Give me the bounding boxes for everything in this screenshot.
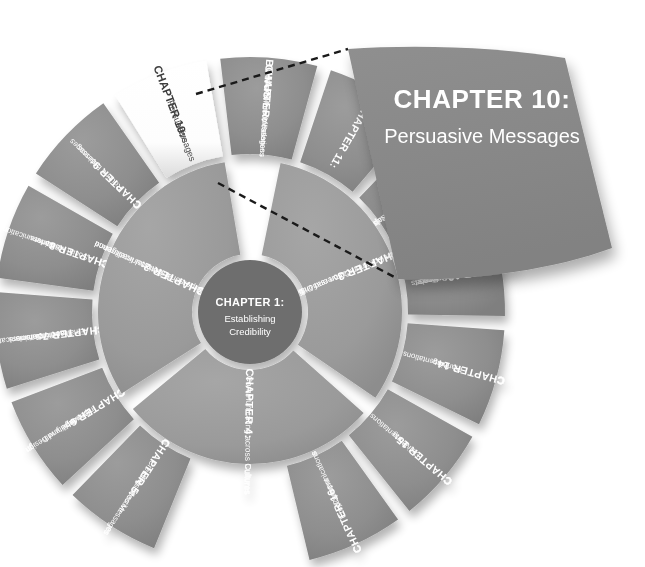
- chapter-4-subtitle-1: Communicating across Cultures: [243, 376, 255, 495]
- chapter-wheel-svg: CHAPTER 5:Creating EffectiveBusiness Mes…: [0, 0, 645, 567]
- hub-circle: [198, 260, 302, 364]
- hub-subtitle-2: Credibility: [229, 326, 271, 337]
- hub-segment[interactable]: CHAPTER 1: Establishing Credibility: [198, 260, 302, 364]
- callout-title: CHAPTER 10:: [393, 84, 570, 114]
- callout-shape: [348, 47, 612, 280]
- figure-canvas: CHAPTER 5:Creating EffectiveBusiness Mes…: [0, 0, 645, 567]
- hub-subtitle-1: Establishing: [224, 313, 275, 324]
- callout-subtitle: Persuasive Messages: [384, 125, 580, 147]
- hub-title: CHAPTER 1:: [215, 296, 284, 308]
- callout-panel[interactable]: CHAPTER 10: Persuasive Messages: [348, 47, 612, 280]
